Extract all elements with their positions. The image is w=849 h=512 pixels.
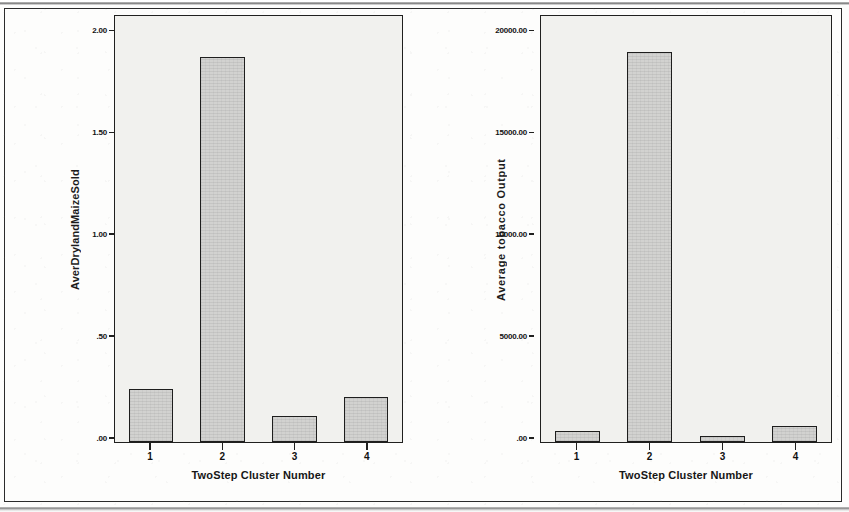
y-tick-right-2: 10000.00	[495, 229, 534, 239]
bar-cluster-4[interactable]	[344, 397, 388, 442]
x-axis-label-3: 3	[259, 451, 331, 465]
bar-slot	[187, 16, 259, 442]
y-tick-left-3: 1.50	[92, 127, 114, 137]
x-axis-label-2: 2	[186, 451, 258, 465]
bar-cluster-1[interactable]	[555, 431, 600, 442]
bar-slot	[115, 16, 187, 442]
y-tick-mark	[529, 233, 534, 235]
x-axis-label-1: 1	[540, 451, 613, 465]
x-tick-mark	[722, 443, 724, 450]
y-tick-left-1: .50	[96, 331, 114, 341]
x-tick-slot	[186, 443, 258, 450]
y-tick-right-3: 15000.00	[495, 127, 534, 137]
x-tick-slot	[540, 443, 613, 450]
x-axis-label-3: 3	[686, 451, 759, 465]
y-tick-label: 5000.00	[499, 332, 527, 341]
y-axis-ticks-left: .00.501.001.502.00	[68, 15, 114, 443]
bar-slot	[759, 16, 832, 442]
y-tick-label: 15000.00	[495, 128, 527, 137]
x-axis-label-1: 1	[114, 451, 186, 465]
x-axis-title-left: TwoStep Cluster Number	[114, 469, 403, 481]
bar-chart-averdrylandmaizesold: AverDrylandMaizeSold .00.501.001.502.00 …	[18, 10, 418, 500]
x-axis-label-2: 2	[613, 451, 686, 465]
x-tick-mark	[576, 443, 578, 450]
y-tick-left-4: 2.00	[92, 25, 114, 35]
y-tick-left-2: 1.00	[92, 229, 114, 239]
y-tick-label: 1.00	[92, 230, 107, 239]
bar-cluster-1[interactable]	[129, 389, 173, 442]
y-tick-right-0: .00	[516, 433, 534, 443]
y-axis-ticks-right: .005000.0010000.0015000.0020000.00	[488, 15, 534, 443]
x-tick-slot	[259, 443, 331, 450]
x-axis-labels-right: 1234	[540, 451, 832, 465]
x-tick-mark	[222, 443, 224, 450]
x-tick-mark	[649, 443, 651, 450]
bar-series-right	[541, 16, 831, 442]
y-tick-label: .00	[516, 434, 527, 443]
figure-page: AverDrylandMaizeSold .00.501.001.502.00 …	[0, 0, 849, 512]
y-tick-right-4: 20000.00	[495, 25, 534, 35]
bar-cluster-2[interactable]	[627, 52, 672, 443]
plot-area-left	[114, 15, 403, 443]
y-tick-right-1: 5000.00	[499, 331, 534, 341]
x-tick-mark	[795, 443, 797, 450]
y-tick-left-0: .00	[96, 433, 114, 443]
y-tick-label: 2.00	[92, 26, 107, 35]
x-tick-slot	[114, 443, 186, 450]
bar-slot	[614, 16, 687, 442]
x-axis-labels-left: 1234	[114, 451, 403, 465]
bar-cluster-4[interactable]	[772, 426, 817, 442]
y-tick-mark	[529, 437, 534, 439]
y-tick-mark	[529, 132, 534, 134]
bar-cluster-2[interactable]	[200, 57, 244, 442]
x-tick-mark	[294, 443, 296, 450]
bar-slot	[259, 16, 331, 442]
bar-slot	[541, 16, 614, 442]
bar-series-left	[115, 16, 402, 442]
bar-slot	[330, 16, 402, 442]
x-axis-label-4: 4	[331, 451, 403, 465]
x-tick-slot	[686, 443, 759, 450]
y-tick-label: 1.50	[92, 128, 107, 137]
x-axis-title-right: TwoStep Cluster Number	[540, 469, 832, 481]
x-axis-ticks-right	[540, 443, 832, 450]
x-axis-ticks-left	[114, 443, 403, 450]
x-tick-slot	[613, 443, 686, 450]
y-tick-mark	[529, 335, 534, 337]
bar-chart-average-tobacco-output: Average tobacco Output .005000.0010000.0…	[430, 10, 830, 500]
y-tick-label: 20000.00	[495, 26, 527, 35]
x-tick-mark	[366, 443, 368, 450]
y-tick-label: .00	[96, 434, 107, 443]
y-tick-mark	[529, 30, 534, 32]
scan-top-artifact	[0, 0, 849, 5]
bar-cluster-3[interactable]	[700, 436, 745, 442]
y-tick-label: .50	[96, 332, 107, 341]
bar-slot	[686, 16, 759, 442]
plot-area-right	[540, 15, 832, 443]
x-tick-slot	[759, 443, 832, 450]
x-tick-mark	[149, 443, 151, 450]
bar-cluster-3[interactable]	[272, 416, 316, 442]
scan-bottom-artifact	[0, 507, 849, 512]
x-tick-slot	[331, 443, 403, 450]
x-axis-label-4: 4	[759, 451, 832, 465]
y-tick-label: 10000.00	[495, 230, 527, 239]
